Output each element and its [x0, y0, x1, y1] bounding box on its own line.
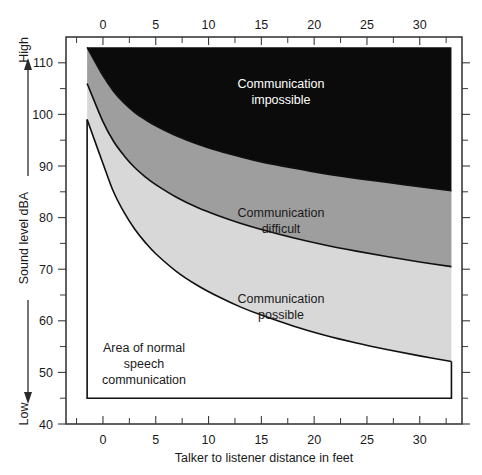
x-tick-label-top: 15 — [254, 18, 268, 32]
x-tick-label-top: 10 — [202, 18, 216, 32]
x-tick-label-bottom: 5 — [152, 433, 159, 447]
x-tick-label-top: 5 — [152, 18, 159, 32]
speech-communication-chart: 051015202530 051015202530 40506070809010… — [0, 0, 482, 475]
x-axis-title: Talker to listener distance in feet — [175, 451, 354, 465]
x-tick-label-bottom: 25 — [360, 433, 374, 447]
x-tick-label-bottom: 30 — [413, 433, 427, 447]
y-tick-label: 110 — [33, 56, 53, 70]
region-label-difficult-line1: Communication — [238, 206, 325, 220]
x-tick-label-top: 30 — [413, 18, 427, 32]
y-tick-label: 80 — [39, 211, 53, 225]
region-label-impossible-line1: Communication — [238, 77, 325, 91]
chart-figure: 051015202530 051015202530 40506070809010… — [0, 0, 482, 475]
y-axis-high-label: High — [17, 37, 31, 63]
y-tick-label: 40 — [39, 418, 53, 432]
y-tick-label: 70 — [39, 263, 53, 277]
x-tick-label-bottom: 10 — [202, 433, 216, 447]
region-label-impossible-line2: impossible — [251, 93, 310, 107]
x-tick-label-top: 20 — [307, 18, 321, 32]
y-tick-label: 100 — [32, 108, 53, 122]
region-label-difficult-line2: difficult — [262, 222, 301, 236]
x-tick-label-top: 0 — [99, 18, 106, 32]
y-tick-label: 90 — [39, 160, 53, 174]
region-label-possible-line2: possible — [258, 308, 304, 322]
x-tick-label-bottom: 15 — [254, 433, 268, 447]
y-tick-label: 50 — [39, 366, 53, 380]
x-tick-label-bottom: 0 — [99, 433, 106, 447]
region-label-normal-line2: speech — [124, 357, 164, 371]
y-tick-label: 60 — [39, 314, 53, 328]
x-tick-label-bottom: 20 — [307, 433, 321, 447]
y-axis-low-label: Low — [17, 402, 31, 426]
region-label-normal-line3: communication — [102, 373, 186, 387]
region-label-normal-line1: Area of normal — [103, 341, 185, 355]
x-tick-label-top: 25 — [360, 18, 374, 32]
y-axis-title: Sound level dBA — [17, 191, 31, 284]
region-label-possible-line1: Communication — [238, 292, 325, 306]
